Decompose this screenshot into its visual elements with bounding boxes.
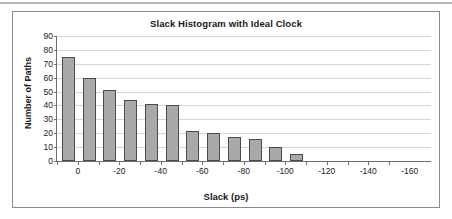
bar [124, 100, 137, 161]
x-tick-label: -60 [196, 166, 208, 176]
x-tick-mark [202, 161, 203, 165]
x-tick-label: -120 [318, 166, 335, 176]
bar [186, 131, 199, 161]
x-tick-mark [182, 161, 183, 165]
y-tick-label: 30 [44, 114, 53, 124]
bar [228, 137, 241, 161]
bar [269, 147, 282, 161]
x-tick-label: -100 [277, 166, 294, 176]
y-axis-title: Number of Paths [23, 45, 33, 141]
x-tick-mark [348, 161, 349, 165]
x-tick-mark [57, 161, 58, 165]
bar [145, 104, 158, 161]
x-tick-label: -80 [238, 166, 250, 176]
x-tick-mark [99, 161, 100, 165]
y-tick-label: 70 [44, 59, 53, 69]
y-tick-label: 80 [44, 45, 53, 55]
x-tick-mark [368, 161, 369, 165]
chart-container: Slack Histogram with Ideal Clock Number … [12, 11, 440, 208]
y-tick-label: 60 [44, 73, 53, 83]
x-tick-mark [244, 161, 245, 165]
bar [103, 90, 116, 161]
top-divider-rule [0, 2, 452, 4]
bar [290, 154, 303, 161]
y-tick-label: 20 [44, 128, 53, 138]
y-tick-label: 40 [44, 100, 53, 110]
x-tick-mark [306, 161, 307, 165]
x-tick-label: 0 [75, 166, 80, 176]
x-tick-label: -160 [401, 166, 418, 176]
y-tick-label: 10 [44, 142, 53, 152]
x-tick-mark [161, 161, 162, 165]
x-axis-title: Slack (ps) [13, 191, 439, 202]
chart-title: Slack Histogram with Ideal Clock [13, 18, 439, 29]
x-tick-mark [389, 161, 390, 165]
x-tick-label: -40 [155, 166, 167, 176]
bar [62, 57, 75, 161]
x-tick-mark [285, 161, 286, 165]
plot-area: 9080706050403020100 0-20-40-60-80-100-12… [56, 36, 431, 162]
bar [83, 78, 96, 161]
bar [166, 105, 179, 161]
x-tick-label: -140 [360, 166, 377, 176]
y-tick-label: 50 [44, 87, 53, 97]
bar [207, 133, 220, 161]
bar [249, 139, 262, 161]
x-tick-mark [140, 161, 141, 165]
bars-group [57, 36, 431, 161]
x-tick-mark [119, 161, 120, 165]
x-tick-label: -20 [113, 166, 125, 176]
x-tick-mark [223, 161, 224, 165]
x-tick-mark [78, 161, 79, 165]
x-tick-mark [327, 161, 328, 165]
y-tick-label: 90 [44, 31, 53, 41]
y-tick-label: 0 [48, 156, 53, 166]
x-tick-mark [265, 161, 266, 165]
